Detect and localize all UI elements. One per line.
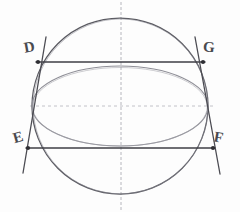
geometry-sketch [0,0,240,212]
point-label-d: D [23,39,36,56]
point-d-marker [36,60,40,64]
point-f-marker [211,146,215,150]
slant-line-left [23,37,46,173]
point-label-g: G [202,40,215,56]
point-g-marker [201,60,205,64]
figure-canvas: D G E F [0,0,240,212]
point-e-marker [26,146,30,150]
